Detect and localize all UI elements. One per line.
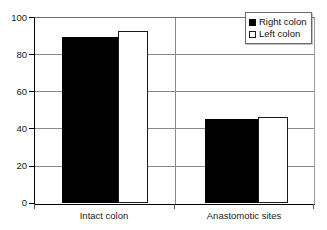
truncated-title-remnant: [26, 0, 146, 1]
filled-black-square-icon: [249, 19, 256, 26]
bar-anastomotic-sites-right-colon: [205, 119, 258, 203]
legend: Right colon Left colon: [245, 12, 312, 44]
y-tick-label-60: 60: [1, 87, 27, 97]
x-tick-mark-start: [34, 204, 35, 209]
y-tick-label-80: 80: [1, 50, 27, 60]
y-tick-label-100: 100: [1, 13, 27, 23]
x-tick-mark-middle: [174, 204, 175, 209]
y-tick-label-0: 0: [1, 198, 27, 208]
legend-item-left-colon: Left colon: [249, 28, 307, 40]
bar-intact-colon-right-colon: [62, 37, 118, 203]
bar-chart: 100 80 60 40 20 0 Intact colon Anastomot: [0, 0, 327, 230]
bar-anastomotic-sites-left-colon: [258, 117, 288, 203]
legend-item-right-colon: Right colon: [249, 16, 307, 28]
legend-label-right-colon: Right colon: [259, 17, 307, 27]
x-tick-label-anastomotic-sites: Anastomotic sites: [174, 211, 314, 221]
x-tick-label-intact-colon: Intact colon: [34, 211, 174, 221]
bars-layer: [34, 17, 313, 203]
y-tick-label-40: 40: [1, 124, 27, 134]
x-tick-mark-end: [313, 204, 314, 209]
y-tick-label-20: 20: [1, 161, 27, 171]
bar-intact-colon-left-colon: [118, 31, 148, 203]
legend-label-left-colon: Left colon: [259, 29, 300, 39]
outlined-white-square-icon: [249, 31, 256, 38]
